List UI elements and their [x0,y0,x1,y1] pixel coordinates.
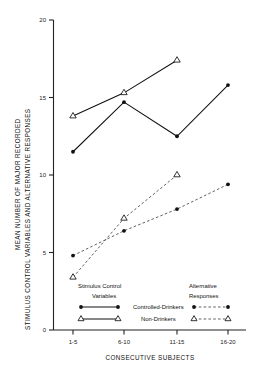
data-point-filled-circle [226,182,230,186]
legend-row-controlled-drinkers[interactable]: Controlled-Drinkers [79,304,230,310]
legend-marker-filled-circle-left2 [116,305,120,309]
data-point-filled-circle [226,83,230,87]
series-2 [71,182,230,257]
y-tick-label-0: 0 [43,327,47,333]
y-axis-title: MEAN NUMBER OF MAJOR RECORDED STIMULUS C… [14,109,31,330]
legend-marker-open-triangle-left [78,316,84,321]
data-point-filled-circle [71,254,75,258]
data-point-open-triangle [174,171,180,176]
legend-right-header-line2: Responses [189,293,219,299]
x-tick-label-3: 16-20 [220,339,236,345]
x-tick-label-0: 1-5 [69,339,78,345]
series-line-1 [73,60,177,116]
series-0 [71,83,230,153]
legend-label-non-drinkers: Non-Drinkers [141,316,176,322]
y-tick-label-10: 10 [39,172,46,178]
series-line-2 [73,184,228,255]
series-1 [70,57,180,118]
legend-left-header-line2: Variables [92,293,116,299]
legend-left-header-line1: Stimulus Control [78,283,121,289]
series-line-0 [73,85,228,152]
data-point-filled-circle [175,207,179,211]
legend-label-controlled-drinkers: Controlled-Drinkers [133,304,184,310]
y-axis-ticks: 0 5 10 15 20 [39,17,53,333]
series-line-3 [73,175,177,277]
legend-marker-filled-circle-right2 [226,305,230,309]
chart-figure: MEAN NUMBER OF MAJOR RECORDED STIMULUS C… [0,0,255,370]
legend-marker-filled-circle-right [192,305,196,309]
x-tick-label-2: 11-15 [170,339,186,345]
legend-marker-open-triangle-right2 [225,316,231,321]
y-tick-label-20: 20 [39,17,46,23]
legend-right-header-line1: Alternative [189,283,218,289]
data-point-filled-circle [71,150,75,154]
y-tick-label-15: 15 [39,95,46,101]
x-tick-label-1: 6-10 [118,339,131,345]
y-axis-title-line2: STIMULUS CONTROL VARIABLES AND ALTERNATI… [24,109,31,330]
y-axis-title-line1: MEAN NUMBER OF MAJOR RECORDED [14,118,21,250]
legend-row-non-drinkers[interactable]: Non-Drinkers [78,316,231,322]
data-point-filled-circle [122,100,126,104]
data-point-filled-circle [122,229,126,233]
legend-marker-filled-circle-left [79,305,83,309]
data-point-open-triangle [70,274,76,279]
legend-marker-open-triangle-right [191,316,197,321]
data-point-filled-circle [175,134,179,138]
data-point-open-triangle [174,57,180,62]
x-axis-title: CONSECUTIVE SUBJECTS [105,354,194,361]
line-chart-svg: MEAN NUMBER OF MAJOR RECORDED STIMULUS C… [0,0,255,370]
chart-legend: Stimulus Control Variables Alternative R… [78,283,231,322]
y-tick-label-5: 5 [43,250,47,256]
data-series-layer [70,57,230,279]
legend-marker-open-triangle-left2 [115,316,121,321]
series-3 [70,171,180,279]
data-point-open-triangle [121,215,127,220]
x-axis-ticks: 1-5 6-10 11-15 16-20 [69,330,237,345]
